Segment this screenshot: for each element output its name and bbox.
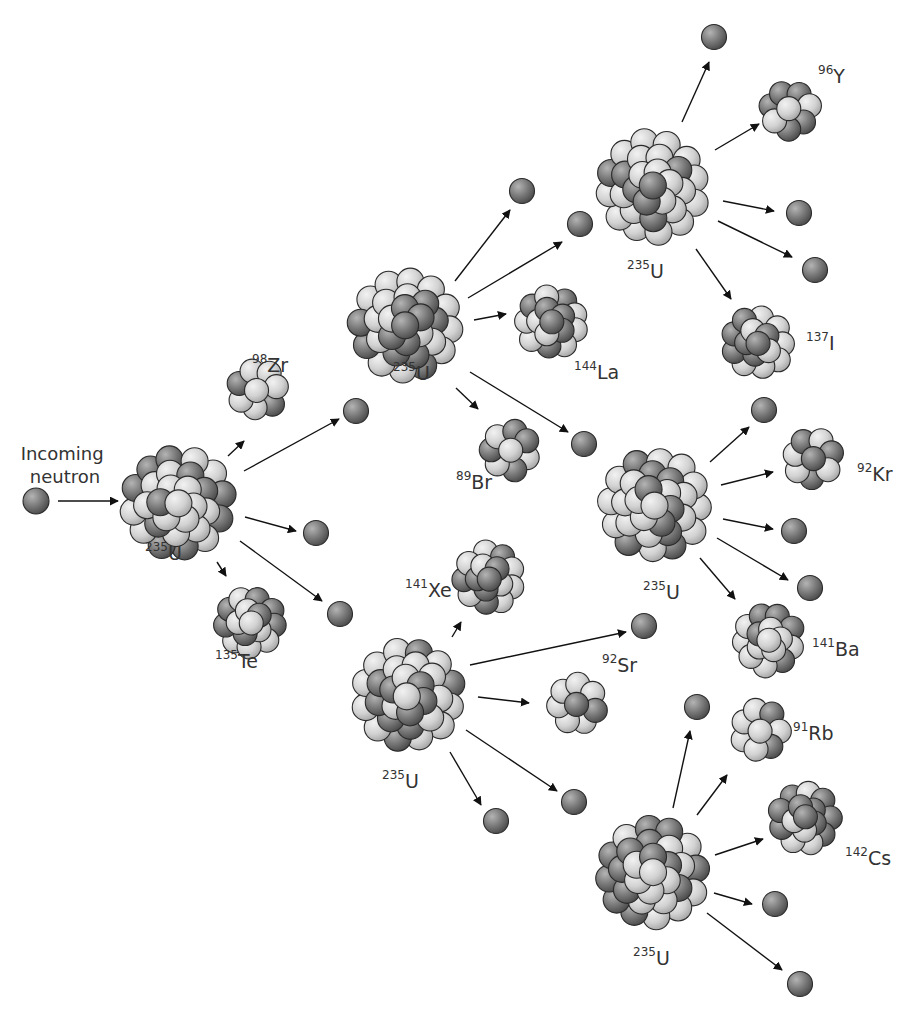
element-symbol: U [656, 947, 670, 969]
nucleus-y96 [759, 82, 821, 142]
neutron-sphere [801, 447, 825, 471]
element-symbol: Rb [808, 722, 833, 744]
mass-number: 235 [382, 768, 405, 782]
arrow [456, 388, 478, 409]
arrow [450, 752, 481, 805]
element-symbol: U [405, 770, 419, 792]
neutron-sphere [540, 310, 564, 334]
mass-number: 137 [806, 330, 829, 344]
neutron-sphere [793, 805, 817, 829]
element-symbol: La [597, 361, 619, 383]
arrow [717, 538, 788, 580]
neutron-sphere [746, 331, 770, 355]
element-symbol: Kr [872, 463, 892, 485]
element-symbol: U [168, 542, 182, 564]
nucleus-u6 [596, 815, 710, 929]
proton-sphere [499, 438, 523, 462]
mass-number: 98 [252, 352, 267, 366]
arrow [721, 472, 773, 485]
proton-sphere [393, 683, 420, 710]
mass-number: 235 [633, 945, 656, 959]
isotope-label-u3: 235U [627, 258, 664, 282]
arrow [715, 124, 759, 150]
proton-sphere [777, 97, 801, 121]
mass-number: 141 [405, 577, 428, 591]
element-symbol: Xe [428, 579, 452, 601]
free-neutron [782, 519, 807, 544]
free-neutron [304, 521, 329, 546]
nucleus-u4 [598, 449, 712, 562]
element-symbol: Cs [868, 847, 891, 869]
nucleus-ba141 [733, 604, 804, 678]
arrow [673, 731, 690, 808]
arrow [466, 730, 557, 791]
arrow [244, 419, 339, 471]
mass-number: 235 [643, 579, 666, 593]
free-neutron [328, 602, 353, 627]
free-neutron [787, 201, 812, 226]
mass-number: 144 [574, 359, 597, 373]
arrow [707, 913, 782, 970]
caption-line-2: neutron [30, 466, 100, 487]
arrow [696, 249, 731, 299]
isotope-label-u6: 235U [633, 945, 670, 969]
free-neutron [572, 432, 597, 457]
nucleus-rb91 [731, 698, 791, 761]
element-symbol: U [666, 581, 680, 603]
isotope-label-ba141: 141Ba [812, 636, 860, 660]
free-neutron [510, 179, 535, 204]
mass-number: 92 [857, 461, 872, 475]
isotope-label-sr92: 92Sr [602, 652, 637, 676]
isotope-label-u4: 235U [643, 579, 680, 603]
proton-sphere [640, 859, 667, 886]
arrow [228, 441, 244, 456]
proton-sphere [245, 378, 269, 402]
nucleus-i137 [722, 306, 794, 378]
arrow [478, 697, 529, 703]
isotope-label-kr92: 92Kr [857, 461, 893, 485]
free-neutron [702, 25, 727, 50]
free-neutron [763, 892, 788, 917]
isotope-label-br89: 89Br [456, 469, 492, 493]
element-symbol: I [829, 332, 835, 354]
free-neutron [788, 972, 813, 997]
free-neutron [798, 576, 823, 601]
arrow [715, 839, 763, 855]
element-symbol: Y [832, 65, 845, 87]
arrow [718, 221, 792, 257]
arrow [723, 519, 773, 529]
proton-sphere [757, 628, 781, 652]
element-symbol: U [650, 260, 664, 282]
free-neutron [344, 399, 369, 424]
free-neutron [568, 212, 593, 237]
isotope-label-y96: 96Y [818, 63, 845, 87]
element-symbol: Br [471, 471, 492, 493]
proton-sphere [641, 492, 668, 519]
arrow [723, 201, 774, 211]
proton-sphere [165, 490, 192, 517]
arrow [682, 62, 709, 122]
mass-number: 142 [845, 845, 868, 859]
nucleus-u3 [596, 129, 708, 245]
neutron-sphere [639, 172, 666, 199]
mass-number: 135 [215, 648, 238, 662]
free-neutron [562, 790, 587, 815]
nucleus-kr92 [783, 429, 843, 490]
arrow [710, 427, 749, 462]
mass-number: 89 [456, 469, 471, 483]
element-symbol: Ba [835, 638, 860, 660]
isotope-label-rb91: 91Rb [793, 720, 834, 744]
isotope-label-u5: 235U [382, 768, 419, 792]
arrow [245, 517, 296, 531]
free-neutron [632, 614, 657, 639]
nuclei-layer [120, 82, 843, 930]
isotope-label-cs142: 142Cs [845, 845, 891, 869]
element-symbol: Zr [267, 354, 288, 376]
mass-number: 235 [393, 360, 416, 374]
element-symbol: U [416, 362, 430, 384]
isotope-label-xe141: 141Xe [405, 577, 452, 601]
nucleus-la144 [515, 285, 588, 358]
arrow [217, 562, 226, 576]
arrow [697, 775, 727, 815]
mass-number: 96 [818, 63, 833, 77]
